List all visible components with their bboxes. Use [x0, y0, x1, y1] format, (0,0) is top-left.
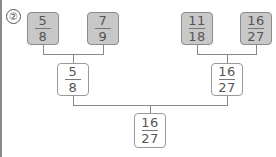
problem-number-label: ②: [6, 9, 21, 24]
fraction-box: 16 27: [211, 63, 243, 96]
connector: [73, 54, 74, 63]
denominator: 8: [39, 30, 48, 43]
numerator: 5: [39, 14, 48, 27]
connector: [256, 45, 257, 54]
numerator: 16: [218, 65, 236, 78]
numerator: 5: [69, 65, 78, 78]
fraction-box: 5 8: [57, 63, 89, 96]
connector: [103, 45, 104, 54]
denominator: 27: [141, 132, 159, 145]
numerator: 16: [247, 14, 265, 27]
connector: [43, 45, 44, 54]
numerator: 16: [141, 116, 159, 129]
left-margin-bar: [0, 0, 2, 157]
connector: [150, 105, 151, 113]
connector: [197, 45, 198, 54]
numerator: 7: [99, 14, 108, 27]
fraction-box: 11 18: [181, 12, 213, 45]
denominator: 8: [69, 81, 78, 94]
fraction-box: 7 9: [87, 12, 119, 45]
denominator: 18: [188, 30, 206, 43]
denominator: 27: [247, 30, 265, 43]
fraction-box: 5 8: [27, 12, 59, 45]
denominator: 27: [218, 81, 236, 94]
connector: [227, 54, 228, 63]
denominator: 9: [99, 30, 108, 43]
fraction-box: 16 27: [240, 12, 272, 45]
numerator: 11: [188, 14, 206, 27]
fraction-box-result: 16 27: [134, 113, 166, 148]
